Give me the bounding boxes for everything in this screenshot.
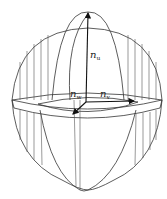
label-n-v: nv	[100, 89, 110, 100]
label-n-u: nu	[90, 50, 100, 61]
nw-arrow	[73, 102, 86, 114]
nu-arrow	[86, 13, 88, 102]
diagram-lines	[0, 0, 167, 199]
label-n-w: nw	[70, 89, 82, 100]
nv-arrow	[86, 101, 134, 102]
ellipsoid-frame-diagram: nu nv nw	[0, 0, 167, 199]
